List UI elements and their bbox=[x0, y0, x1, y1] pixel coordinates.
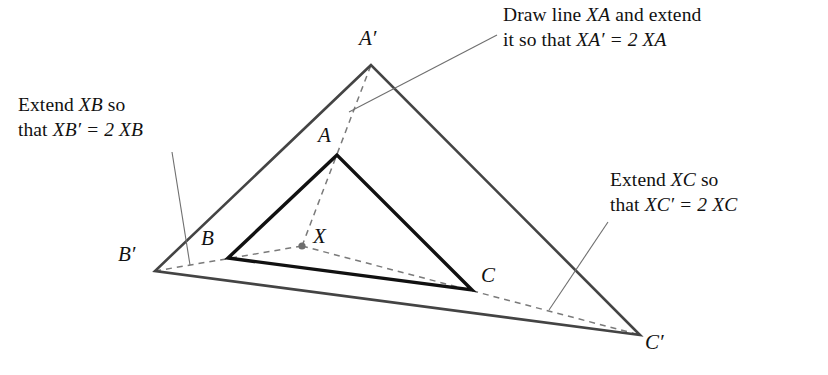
annotation-extend-xc-line2-math: XC′ = 2 XC bbox=[645, 194, 738, 215]
annotation-extend-xb: Extend XB sothat XB′ = 2 XB bbox=[18, 92, 143, 142]
vertex-label-a: A bbox=[318, 125, 331, 146]
annotation-extend-xc-line2-pre: that bbox=[610, 194, 645, 215]
vertex-label-x: X bbox=[313, 226, 326, 247]
annotation-draw-xa: Draw line XA and extendit so that XA′ = … bbox=[503, 2, 701, 52]
outer-triangle-a-prime-b-prime-c-prime bbox=[155, 65, 640, 335]
annotation-extend-xb-line1-pre: Extend bbox=[18, 94, 79, 115]
vertex-label-c-prime: C′ bbox=[645, 332, 664, 353]
annotation-draw-xa-line1-post: and extend bbox=[610, 4, 701, 25]
vertex-label-c: C bbox=[481, 265, 495, 286]
annotation-extend-xc-line1-post: so bbox=[696, 169, 719, 190]
annotation-draw-xa-line1-math: XA bbox=[586, 4, 610, 25]
annotation-extend-xc-line1-pre: Extend bbox=[610, 169, 671, 190]
centre-of-enlargement-dot bbox=[298, 242, 305, 249]
leader-line-extend-xb bbox=[172, 152, 190, 265]
annotation-extend-xc: Extend XC sothat XC′ = 2 XC bbox=[610, 167, 737, 217]
inner-triangle-abc bbox=[228, 155, 472, 290]
geometry-figure: Draw line XA and extendit so that XA′ = … bbox=[0, 0, 828, 375]
annotation-extend-xb-line2-math: XB′ = 2 XB bbox=[53, 119, 143, 140]
annotation-extend-xb-line1-post: so bbox=[103, 94, 126, 115]
vertex-label-b-prime: B′ bbox=[118, 244, 135, 265]
annotation-draw-xa-line2-math: XA′ = 2 XA bbox=[576, 29, 666, 50]
annotation-extend-xc-line1-math: XC bbox=[671, 169, 696, 190]
annotation-extend-xb-line1-math: XB bbox=[79, 94, 103, 115]
annotation-draw-xa-line1-pre: Draw line bbox=[503, 4, 586, 25]
leader-line-extend-xc bbox=[549, 222, 608, 310]
annotation-draw-xa-line2-pre: it so that bbox=[503, 29, 576, 50]
annotation-extend-xb-line2-pre: that bbox=[18, 119, 53, 140]
vertex-label-b: B bbox=[201, 228, 214, 249]
vertex-label-a-prime: A′ bbox=[359, 28, 376, 49]
